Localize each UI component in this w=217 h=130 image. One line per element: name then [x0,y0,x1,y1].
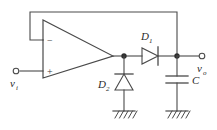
ground-c [166,111,190,118]
diode-d1 [142,47,177,65]
capacitor-c-label: C [192,74,200,86]
input-label-subscript: i [16,84,18,92]
opamp-inverting-sign: − [47,35,53,46]
circuit-diagram: − + v i v o D 1 D 2 C [0,0,217,130]
diode-d1-label-subscript: 1 [149,37,153,45]
diode-d1-label: D 1 [140,30,153,45]
diode-d1-label-symbol: D [140,30,149,42]
diode-d2-label-symbol: D [97,78,106,90]
capacitor-c [166,56,188,111]
output-terminal [177,53,205,59]
input-terminal [13,68,19,74]
output-label-subscript: o [203,69,207,77]
feedback-wire [30,12,177,56]
diode-d2-label: D 2 [97,78,110,93]
output-label-symbol: v [197,62,202,74]
diode-d2 [115,56,133,111]
opamp-noninverting-sign: + [47,66,53,77]
diode-d2-label-subscript: 2 [106,85,110,93]
input-label: v i [10,77,18,92]
input-label-symbol: v [10,77,15,89]
ground-d2 [113,111,137,118]
